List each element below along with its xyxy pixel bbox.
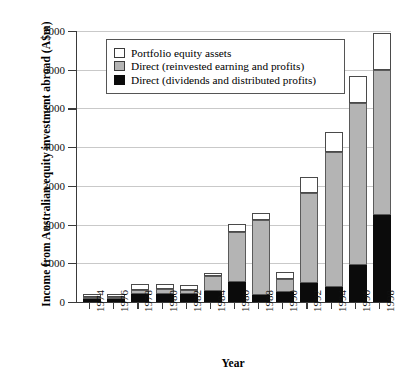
bar-segment[interactable]	[300, 177, 318, 193]
bar-segment[interactable]	[228, 232, 246, 283]
y-tick-label: 3000	[43, 180, 65, 192]
legend-swatch-white	[114, 48, 125, 58]
x-tick-label: 1986	[239, 290, 251, 312]
y-tick	[68, 263, 77, 264]
bar-segment[interactable]	[204, 276, 222, 291]
y-tick-label: 0	[60, 296, 66, 308]
x-tick	[89, 302, 90, 309]
stacked-bar[interactable]	[252, 213, 270, 302]
bar-segment[interactable]	[325, 132, 343, 151]
x-tick	[234, 302, 235, 309]
x-tick	[258, 302, 259, 309]
x-tick-label: 1984	[215, 290, 227, 312]
bar-segment[interactable]	[349, 103, 367, 265]
y-tick-label: 5000	[43, 102, 65, 114]
x-tick	[355, 302, 356, 309]
legend-item[interactable]: Direct (reinvested earning and profits)	[114, 60, 337, 72]
x-tick-label: 1980	[167, 290, 179, 312]
bar-segment[interactable]	[300, 193, 318, 282]
x-tick	[331, 302, 332, 309]
legend-item[interactable]: Portfolio equity assets	[114, 47, 337, 59]
y-tick-label: 1000	[43, 257, 65, 269]
stacked-bar[interactable]	[349, 76, 367, 302]
bar-slot[interactable]	[81, 31, 105, 302]
x-tick	[162, 302, 163, 309]
legend-swatch-gray	[114, 61, 125, 71]
x-tick	[186, 302, 187, 309]
stacked-bar[interactable]	[300, 177, 318, 302]
bar-slot[interactable]	[347, 31, 371, 302]
x-tick-label: 1994	[336, 290, 348, 312]
bar-segment[interactable]	[228, 224, 246, 231]
y-tick-label: 2000	[43, 219, 65, 231]
x-tick-label: 1988	[263, 290, 275, 312]
bar-segment[interactable]	[373, 70, 391, 215]
bar-segment[interactable]	[252, 220, 270, 295]
x-tick-label: 1992	[311, 290, 323, 312]
x-tick	[306, 302, 307, 309]
chart-legend: Portfolio equity assetsDirect (reinveste…	[106, 39, 345, 94]
y-tick	[68, 302, 77, 303]
chart-figure: Income from Australian equity investment…	[0, 0, 403, 388]
x-tick-label: 1978	[142, 290, 154, 312]
stacked-bar[interactable]	[373, 33, 391, 302]
y-tick-label: 7000	[43, 25, 65, 37]
bar-slot[interactable]	[371, 31, 395, 302]
stacked-bar[interactable]	[325, 132, 343, 302]
legend-item[interactable]: Direct (dividends and distributed profit…	[114, 74, 337, 86]
x-tick-label: 1982	[191, 290, 203, 312]
x-axis-title: Year	[76, 357, 390, 369]
legend-label: Direct (dividends and distributed profit…	[131, 74, 316, 86]
x-tick	[282, 302, 283, 309]
x-tick-label: 1990	[287, 290, 299, 312]
x-tick	[113, 302, 114, 309]
y-tick	[68, 31, 77, 32]
bar-segment[interactable]	[325, 152, 343, 287]
bar-segment[interactable]	[252, 213, 270, 220]
x-tick-label: 1998	[384, 290, 396, 312]
y-tick	[68, 108, 77, 109]
y-tick	[68, 225, 77, 226]
x-tick-label: 1996	[360, 290, 372, 312]
y-tick	[68, 147, 77, 148]
x-tick-label: 1976	[118, 290, 130, 312]
x-tick	[210, 302, 211, 309]
y-tick-label: 4000	[43, 141, 65, 153]
y-tick-label: 6000	[43, 64, 65, 76]
bar-segment[interactable]	[276, 272, 294, 279]
legend-swatch-black	[114, 75, 125, 85]
y-tick	[68, 70, 77, 71]
bar-segment[interactable]	[373, 33, 391, 69]
bar-segment[interactable]	[349, 76, 367, 103]
x-tick	[137, 302, 138, 309]
x-tick-label: 1974	[94, 290, 106, 312]
legend-label: Portfolio equity assets	[131, 47, 231, 59]
bar-segment[interactable]	[373, 215, 391, 302]
y-tick	[68, 186, 77, 187]
legend-label: Direct (reinvested earning and profits)	[131, 60, 304, 72]
x-tick	[379, 302, 380, 309]
